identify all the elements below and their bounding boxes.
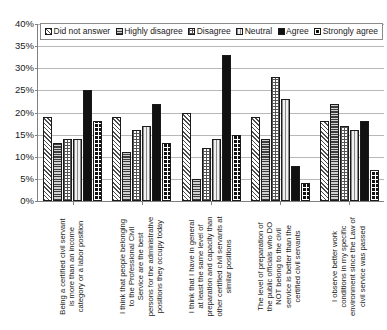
x-axis-category-label-text: The level of preparation ofthe public of… [256,203,302,330]
legend-item: Did not answer [45,27,110,36]
label-line: to the Professional Civil [127,203,136,330]
bar [261,139,270,201]
bar-group [38,24,107,201]
bar [53,143,62,201]
y-axis-tick-label: 25% [2,85,34,95]
y-axis-tick [35,201,38,202]
bar [320,121,329,201]
swatch-vertical-lines-icon [236,28,243,35]
bar [142,126,151,201]
label-line: The level of preparation of [256,203,265,330]
label-line: other certified civil servants at [215,203,224,330]
legend-item: Neutral [236,27,272,36]
legend-item-label: Did not answer [54,27,111,36]
swatch-solid-black-icon [278,28,285,35]
x-axis-category-label: I observe better workconditions in my sp… [314,203,383,330]
label-line: Being a certified civil servant [58,203,67,330]
swatch-checker-small-icon [188,28,195,35]
bar [93,121,102,201]
label-line: NOT belong to the civil [275,203,284,330]
y-axis-tick-label: 40% [2,19,34,29]
bar [271,77,280,201]
bar-group [246,24,315,201]
label-line: is more than an income [67,203,76,330]
label-line: positions they occupy today [155,203,164,330]
label-line: similar positions [224,203,233,330]
y-axis-tick-label: 15% [2,130,34,140]
bar [202,148,211,201]
x-axis-category-label-text: I observe better workconditions in my sp… [330,203,367,330]
label-line: the public officials who DO [265,203,274,330]
bar [122,152,131,201]
bar [232,135,241,201]
label-line: I think that I have in general [187,203,196,330]
bar [350,130,359,201]
label-line: category or a labor position [76,203,85,330]
y-axis-tick-label: 35% [2,41,34,51]
bar [301,183,310,201]
bar [43,117,52,201]
legend-item: Strongly agree [314,27,378,36]
x-axis-category-label: I think that people belongingto the Prof… [106,203,175,330]
legend-item: Highly disagree [116,27,183,36]
bar-chart: 40%35%30%25%20%15%10%5%0% Did not answer… [0,0,387,330]
bar [340,126,349,201]
bar [63,139,72,201]
legend-item-label: Neutral [245,27,272,36]
x-axis-category-label: I think that I have in generalat least t… [175,203,244,330]
x-axis-category-label-text: I think that I have in generalat least t… [187,203,233,330]
legend-item-label: Strongly agree [323,27,378,36]
bar [330,104,339,201]
label-line: I think that people belonging [118,203,127,330]
x-axis-category-labels: Being a certified civil servantis more t… [37,203,383,330]
bar [291,166,300,201]
bar [83,90,92,201]
bar [152,104,161,201]
bar [112,117,121,201]
legend-item-label: Highly disagree [124,27,183,36]
swatch-diagonal-hatch-icon [45,28,52,35]
label-line: certified civil servants [293,203,302,330]
y-axis-tick-label: 0% [2,196,34,206]
legend-item-label: Agree [286,27,309,36]
label-line: service is better than the [284,203,293,330]
y-axis-tick-label: 10% [2,152,34,162]
bar [222,55,231,201]
label-line: environment since the Law of [348,203,357,330]
bar [182,113,191,202]
x-axis-category-label-text: Being a certified civil servantis more t… [58,203,86,330]
label-line: at least the same level of [196,203,205,330]
swatch-checker-bold-icon [314,28,321,35]
plot-area: 40%35%30%25%20%15%10%5%0% [37,24,384,202]
swatch-horizontal-lines-icon [116,28,123,35]
label-line: persons for the administrative [145,203,154,330]
label-line: Service are the best [136,203,145,330]
bar [360,121,369,201]
label-line: civil service was passed [358,203,367,330]
legend-item: Agree [278,27,309,36]
bar-group [315,24,384,201]
y-axis-tick-label: 5% [2,174,34,184]
x-axis-category-label-text: I think that people belongingto the Prof… [118,203,164,330]
bar [251,117,260,201]
y-axis-tick-label: 20% [2,108,34,118]
legend-item: Disagree [188,27,231,36]
label-line: preparation and capacity than [205,203,214,330]
bar [192,179,201,201]
bar [162,143,171,201]
bar [212,139,221,201]
bar [281,99,290,201]
bar [132,130,141,201]
x-axis-category-label: Being a certified civil servantis more t… [37,203,106,330]
legend-item-label: Disagree [197,27,231,36]
chart-legend: Did not answerHighly disagreeDisagreeNeu… [40,23,383,40]
y-axis-tick-label: 30% [2,63,34,73]
bar-groups [38,24,384,201]
x-axis-category-label: The level of preparation ofthe public of… [245,203,314,330]
bar-group [107,24,176,201]
bar [73,139,82,201]
bar [370,170,379,201]
bar-group [176,24,245,201]
